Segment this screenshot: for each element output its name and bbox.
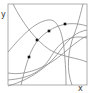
data-point bbox=[28, 56, 31, 59]
curve-6 bbox=[8, 36, 87, 74]
data-points bbox=[28, 23, 67, 59]
curve-group bbox=[8, 4, 87, 86]
y-axis-label: y bbox=[1, 11, 6, 19]
x-axis-label: x bbox=[78, 85, 83, 93]
data-point bbox=[48, 30, 51, 33]
data-point bbox=[64, 23, 67, 26]
curve-diagram bbox=[0, 0, 89, 93]
curve-4 bbox=[8, 20, 66, 85]
data-point bbox=[36, 39, 39, 42]
curve-1 bbox=[13, 4, 87, 62]
curve-3 bbox=[68, 4, 83, 85]
